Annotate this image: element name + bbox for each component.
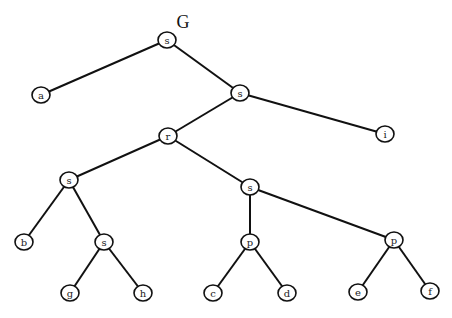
tree-node-p2: p bbox=[385, 232, 403, 248]
edge-s1-s2 bbox=[167, 40, 240, 93]
edge-r-s4 bbox=[168, 136, 250, 187]
tree-node-p1: p bbox=[241, 234, 259, 250]
tree-node-s1: s bbox=[158, 32, 176, 48]
node-label: s bbox=[164, 35, 169, 46]
node-label: c bbox=[210, 288, 216, 299]
edge-r-s3 bbox=[69, 136, 168, 180]
node-label: i bbox=[383, 129, 386, 140]
node-label: g bbox=[67, 288, 74, 299]
node-label: r bbox=[166, 131, 171, 142]
edge-s3-s5 bbox=[69, 180, 104, 242]
tree-node-h: h bbox=[134, 285, 152, 301]
tree-diagram: sasrissbsppghcdef G bbox=[0, 0, 452, 318]
edge-s2-i bbox=[240, 93, 385, 134]
edge-s1-a bbox=[41, 40, 167, 95]
tree-canvas: sasrissbsppghcdef G bbox=[0, 0, 452, 318]
node-label: s bbox=[101, 237, 106, 248]
node-label: p bbox=[247, 237, 253, 248]
node-label: e bbox=[355, 287, 361, 298]
tree-node-e: e bbox=[349, 284, 367, 300]
edge-p2-e bbox=[358, 240, 394, 292]
tree-node-r: r bbox=[159, 128, 177, 144]
tree-node-i: i bbox=[376, 126, 394, 142]
edge-s3-b bbox=[24, 180, 69, 242]
node-label: d bbox=[284, 288, 291, 299]
edges-group bbox=[24, 40, 430, 293]
edge-s4-p2 bbox=[250, 187, 394, 240]
node-label: a bbox=[38, 90, 44, 101]
tree-node-s4: s bbox=[241, 179, 259, 195]
edge-p1-c bbox=[213, 242, 250, 293]
tree-node-b: b bbox=[15, 234, 33, 250]
diagram-title: G bbox=[177, 12, 190, 32]
tree-node-g: g bbox=[61, 285, 79, 301]
nodes-group: sasrissbsppghcdef bbox=[15, 32, 439, 301]
node-label: b bbox=[21, 237, 27, 248]
node-label: h bbox=[140, 288, 147, 299]
node-label: s bbox=[247, 182, 252, 193]
tree-node-s3: s bbox=[60, 172, 78, 188]
node-label: s bbox=[237, 88, 242, 99]
edge-p2-f bbox=[394, 240, 430, 291]
node-label: p bbox=[391, 235, 397, 246]
tree-node-d: d bbox=[278, 285, 296, 301]
tree-node-f: f bbox=[421, 283, 439, 299]
tree-node-c: c bbox=[204, 285, 222, 301]
node-label: s bbox=[66, 175, 71, 186]
edge-s2-r bbox=[168, 93, 240, 136]
edge-s5-g bbox=[70, 242, 104, 293]
edge-s5-h bbox=[104, 242, 143, 293]
tree-node-a: a bbox=[32, 87, 50, 103]
edge-p1-d bbox=[250, 242, 287, 293]
tree-node-s2: s bbox=[231, 85, 249, 101]
tree-node-s5: s bbox=[95, 234, 113, 250]
